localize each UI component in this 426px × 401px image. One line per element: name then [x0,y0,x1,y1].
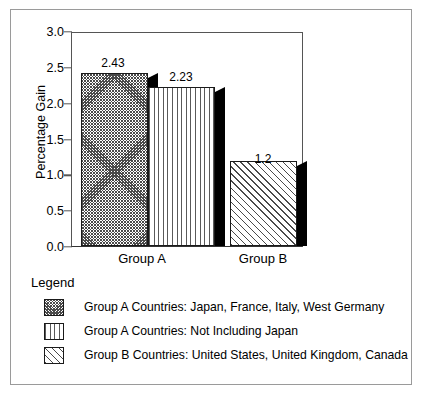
chart-figure: Percentage Gain 3.0 2.5 2.0 1.5 1.0 0.5 … [0,0,426,401]
bar-2-value-label: 2.23 [169,70,192,84]
bar-group-a-excluding-japan [148,87,215,246]
legend-label-group-b: Group B Countries: United States, United… [84,348,408,362]
legend-item-group-a-japan-included: Group A Countries: Japan, France, Italy,… [44,295,401,319]
legend-swatch-crosshatch-icon [44,299,64,316]
legend-label-group-a-japan-included: Group A Countries: Japan, France, Italy,… [84,300,384,314]
legend-item-group-b: Group B Countries: United States, United… [44,343,401,367]
y-tick-label-1-0: 1.0 [24,168,64,182]
y-tick-label-2-5: 2.5 [24,61,64,75]
y-tick-label-1-5: 1.5 [24,133,64,147]
x-tick-label-group-b: Group B [239,251,287,266]
bar-3-value-label: 1.2 [255,152,272,166]
plot-area: Percentage Gain 3.0 2.5 2.0 1.5 1.0 0.5 … [0,0,426,268]
legend-title: Legend [31,276,401,290]
bar-2-side-face [215,92,225,246]
y-tick-label-3-0: 3.0 [24,25,64,39]
legend-swatch-vertical-lines-icon [44,323,64,340]
bar-1-value-label: 2.43 [101,56,124,70]
legend: Legend Group A Countries: Japan, France,… [31,276,401,367]
y-tick-label-0-0: 0.0 [24,240,64,254]
legend-label-group-a-excluding-japan: Group A Countries: Not Including Japan [84,324,298,338]
bar-group-b [230,161,297,246]
x-tick-label-group-a: Group A [118,251,166,266]
legend-item-group-a-excluding-japan: Group A Countries: Not Including Japan [44,319,401,343]
y-tick-label-0-5: 0.5 [24,204,64,218]
bar-3-side-face [297,166,307,246]
bar-3-top-face [297,161,307,166]
bar-1-top-face [148,73,158,78]
y-tick-label-2-0: 2.0 [24,97,64,111]
bar-2-top-face [215,87,225,92]
bar-group-a-japan-included [81,73,148,246]
legend-swatch-diagonal-hatch-icon [44,347,64,364]
